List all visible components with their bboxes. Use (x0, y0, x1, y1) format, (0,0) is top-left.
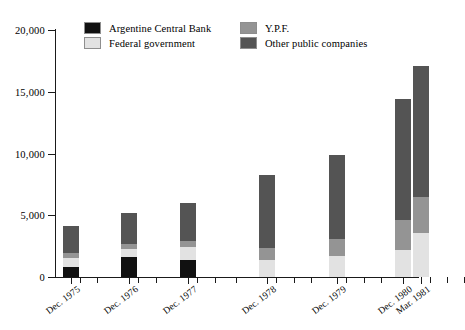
x-tick-6 (421, 277, 422, 284)
y-tick-label-0: 0 (40, 272, 45, 283)
x-minor-tick-12 (381, 277, 382, 283)
x-tick-label-2: Dec. 1977 (161, 284, 199, 316)
x-tick-label-1: Dec. 1976 (102, 284, 140, 316)
bar-segment-federal-government (329, 256, 345, 277)
legend-swatch-other-public-companies (240, 37, 257, 49)
legend-item-ypf: Y.P.F. (240, 22, 374, 34)
x-minor-tick-5 (215, 277, 216, 283)
x-minor-tick-11 (364, 277, 365, 283)
x-minor-tick-0 (80, 277, 81, 283)
x-tick-label-4: Dec. 1979 (310, 284, 348, 316)
y-tick-15000 (48, 92, 55, 93)
bar-segment-argentine-central-bank (63, 267, 79, 277)
x-tick-4 (337, 277, 338, 284)
bar-segment-other-public-companies (395, 99, 411, 219)
x-minor-tick-1 (97, 277, 98, 283)
bar-dec-1977 (180, 203, 196, 277)
bar-segment-y-p-f (395, 220, 411, 250)
legend-item-other-public-companies: Other public companies (240, 37, 374, 49)
bar-segment-other-public-companies (180, 203, 196, 241)
bar-dec-1979 (329, 155, 345, 277)
y-tick-0 (48, 277, 55, 278)
x-minor-tick-2 (138, 277, 139, 283)
x-tick-2 (188, 277, 189, 284)
legend-label-argentine-central-bank: Argentine Central Bank (109, 23, 211, 34)
bar-segment-other-public-companies (259, 175, 275, 248)
bar-segment-federal-government (63, 258, 79, 267)
legend-swatch-ypf (240, 22, 257, 34)
y-tick-label-5000: 5,000 (20, 210, 45, 221)
bar-segment-federal-government (413, 233, 429, 277)
legend-label-federal-government: Federal government (109, 38, 195, 49)
x-minor-tick-4 (197, 277, 198, 283)
y-tick-10000 (48, 154, 55, 155)
x-minor-tick-8 (294, 277, 295, 283)
x-minor-tick-10 (346, 277, 347, 283)
chart-legend: Argentine Central Bank Federal governmen… (84, 22, 374, 49)
x-tick-1 (129, 277, 130, 284)
x-minor-tick-3 (156, 277, 157, 283)
bar-segment-y-p-f (413, 197, 429, 233)
bar-segment-argentine-central-bank (121, 257, 137, 277)
bar-segment-federal-government (395, 250, 411, 277)
legend-swatch-federal-government (84, 37, 101, 49)
bar-segment-y-p-f (259, 248, 275, 260)
bar-dec-1976 (121, 213, 137, 277)
legend-label-ypf: Y.P.F. (265, 23, 289, 34)
plot-area: 05,00010,00015,00020,000 (55, 30, 418, 277)
x-tick-3 (267, 277, 268, 284)
bar-segment-other-public-companies (63, 226, 79, 253)
bar-mar-1981 (413, 66, 429, 277)
bar-segment-other-public-companies (121, 213, 137, 244)
x-tick-0 (71, 277, 72, 284)
bar-segment-y-p-f (329, 239, 345, 256)
bar-segment-federal-government (180, 247, 196, 260)
x-tick-label-0: Dec. 1975 (44, 284, 82, 316)
x-tick-5 (403, 277, 404, 284)
x-minor-tick-7 (276, 277, 277, 283)
x-tick-label-3: Dec. 1978 (240, 284, 278, 316)
legend-swatch-argentine-central-bank (84, 22, 101, 34)
legend-item-federal-government: Federal government (84, 37, 218, 49)
bar-segment-argentine-central-bank (180, 260, 196, 277)
x-minor-tick-9 (311, 277, 312, 283)
bar-dec-1980 (395, 99, 411, 277)
legend-label-other-public-companies: Other public companies (265, 38, 368, 49)
x-minor-tick-6 (236, 277, 237, 283)
y-tick-label-20000: 20,000 (15, 25, 45, 36)
bar-dec-1978 (259, 175, 275, 278)
bar-segment-other-public-companies (413, 66, 429, 198)
y-tick-5000 (48, 215, 55, 216)
legend-item-argentine-central-bank: Argentine Central Bank (84, 22, 218, 34)
bar-segment-federal-government (259, 260, 275, 277)
x-minor-tick-13 (430, 277, 431, 283)
bar-dec-1975 (63, 226, 79, 277)
x-minor-tick-14 (447, 277, 448, 283)
y-tick-20000 (48, 30, 55, 31)
bar-segment-other-public-companies (329, 155, 345, 240)
y-tick-label-10000: 10,000 (15, 148, 45, 159)
bar-segment-federal-government (121, 249, 137, 256)
y-tick-label-15000: 15,000 (15, 86, 45, 97)
